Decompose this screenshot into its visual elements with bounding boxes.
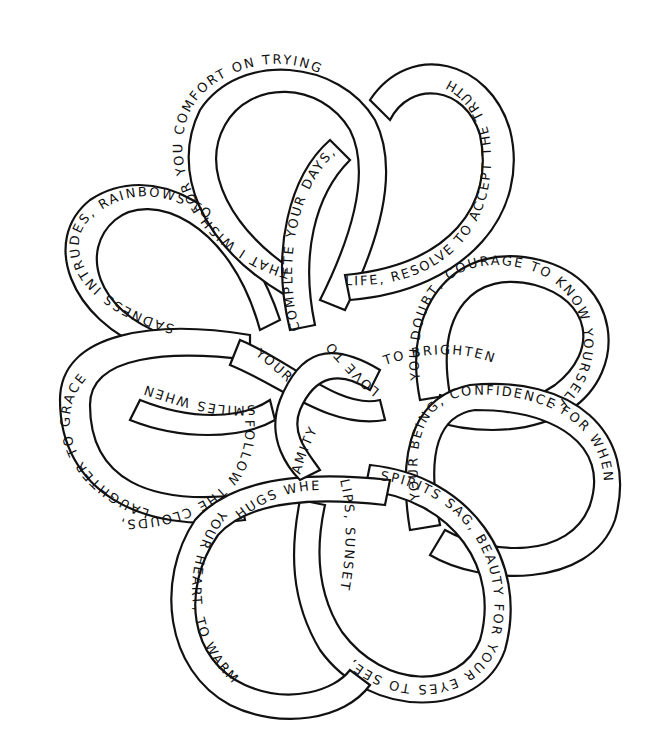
knot-illustration: THAT I WISH FOR YOU COMFORT ON TRYING LI… [0, 0, 645, 752]
